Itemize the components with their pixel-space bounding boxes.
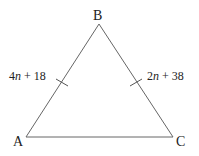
vertex-label-a: A <box>13 134 24 149</box>
vertex-label-c: C <box>176 134 185 149</box>
triangle-diagram: B A C 4n + 18 2n + 38 <box>0 0 199 156</box>
vertex-label-b: B <box>93 8 102 23</box>
side-label-bc: 2n + 38 <box>147 69 184 83</box>
side-label-ab: 4n + 18 <box>9 69 46 83</box>
tick-mark-ab <box>56 79 68 86</box>
